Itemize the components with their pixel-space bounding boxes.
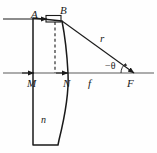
label-M: M: [27, 78, 36, 89]
label-n: n: [41, 115, 46, 125]
label-N: N: [63, 78, 70, 89]
label-B: B: [60, 5, 67, 16]
label-angle-theta: −θ: [105, 61, 115, 71]
label-A: A: [31, 9, 38, 20]
label-r: r: [100, 33, 104, 44]
optics-diagram: A B r −θ M N f F n: [0, 0, 157, 153]
label-f: f: [88, 78, 91, 89]
refracted-ray-r: [62, 21, 134, 73]
label-F: F: [127, 78, 134, 89]
